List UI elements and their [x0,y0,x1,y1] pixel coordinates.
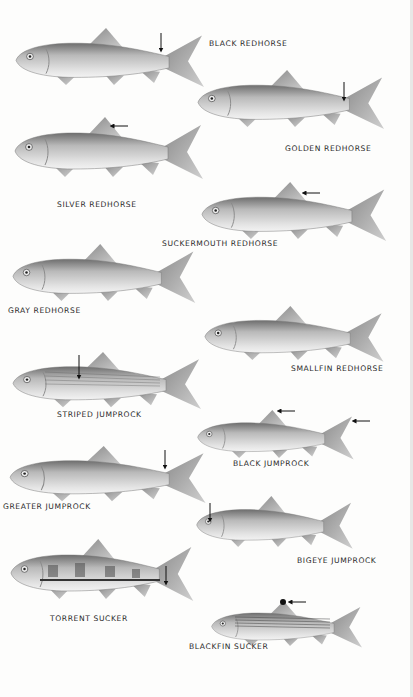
label-bigeye-jumprock: BIGEYE JUMPROCK [297,556,376,565]
fish-illustrations [0,0,413,697]
fish-identification-plate: BLACK REDHORSE GOLDEN REDHORSE SILVER RE… [0,0,413,697]
fish-striped-jumprock [13,352,201,409]
label-black-redhorse: BLACK REDHORSE [209,39,287,48]
label-black-jumprock: BLACK JUMPROCK [233,459,309,468]
label-smallfin-redhorse: SMALLFIN REDHORSE [291,364,383,373]
fish-golden-redhorse [198,70,384,129]
label-greater-jumprock: GREATER JUMPROCK [3,502,91,511]
fish-silver-redhorse [15,117,203,179]
fish-gray-redhorse [13,244,195,303]
label-blackfin-sucker: BLACKFIN SUCKER [189,642,268,651]
label-suckermouth-redhorse: SUCKERMOUTH REDHORSE [162,239,278,248]
fish-black-jumprock [198,410,354,460]
fish-suckermouth-redhorse [202,182,386,241]
label-striped-jumprock: STRIPED JUMPROCK [57,410,142,419]
fish-smallfin-redhorse [205,306,384,362]
fish-black-redhorse [16,28,204,87]
label-golden-redhorse: GOLDEN REDHORSE [285,144,371,153]
label-gray-redhorse: GRAY REDHORSE [8,306,81,315]
fish-bigeye-jumprock [197,496,353,549]
label-silver-redhorse: SILVER REDHORSE [57,200,137,209]
fish-greater-jumprock [10,446,206,503]
label-torrent-sucker: TORRENT SUCKER [50,614,128,623]
